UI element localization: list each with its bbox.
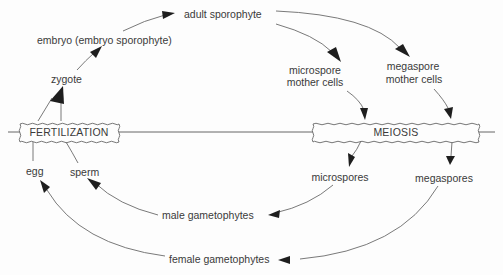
sperm-label: sperm: [70, 166, 99, 178]
zygote-label: zygote: [51, 73, 82, 85]
embryo-arrowhead: [90, 46, 102, 58]
microspores-to-male-line: [275, 185, 333, 213]
meiosis-label: MEIOSIS: [373, 126, 418, 138]
meiosis-to-megaspores-line: [451, 142, 452, 156]
female-gametophytes-label: female gametophytes: [169, 253, 269, 265]
sperm-to-fertilization-line: [66, 142, 78, 163]
megaspores-arrowhead: [446, 156, 455, 165]
sperm-arrowhead: [87, 178, 101, 190]
female-to-egg-line: [47, 190, 165, 256]
megaspore-mother-cells-label-1: megaspore: [387, 60, 440, 72]
meiosis-arrowhead-2: [444, 107, 453, 119]
megaspore-mc-arrowhead: [395, 44, 410, 57]
adult-to-microspore-mc-line: [276, 24, 332, 52]
male-gametophytes-arrowhead: [268, 210, 280, 218]
microspore-mc-to-meiosis-line: [347, 91, 364, 110]
fertilization-to-zygote-line-1: [38, 98, 52, 121]
embryo-to-adult-line: [123, 15, 165, 31]
adult-to-megaspore-mc-line: [276, 11, 400, 48]
adult-sporophyte-label: adult sporophyte: [184, 8, 262, 20]
meiosis-arrowhead-1: [360, 108, 368, 120]
megaspore-mother-cells-label-2: mother cells: [386, 73, 443, 85]
fertilization-box: FERTILIZATION: [19, 123, 120, 143]
life-cycle-diagram: FERTILIZATION MEIOSIS adult sporophyte e…: [0, 0, 503, 275]
megaspores-to-female-line: [300, 186, 438, 259]
megaspores-label: megaspores: [415, 172, 473, 184]
microspore-mother-cells-label-1: microspore: [289, 64, 341, 76]
adult-arrowhead: [162, 11, 175, 19]
male-gametophytes-label: male gametophytes: [162, 209, 254, 221]
egg-label: egg: [26, 165, 44, 177]
microspores-arrowhead: [348, 153, 355, 167]
fertilization-label: FERTILIZATION: [29, 126, 108, 138]
female-gametophytes-arrowhead: [278, 256, 290, 264]
meiosis-box: MEIOSIS: [312, 123, 480, 143]
megaspore-mc-to-meiosis-line: [434, 89, 448, 108]
microspore-mother-cells-label-2: mother cells: [287, 76, 344, 88]
microspores-label: microspores: [311, 171, 368, 183]
egg-arrowhead: [40, 180, 50, 193]
zygote-to-embryo-line: [77, 53, 94, 70]
zygote-arrowhead: [50, 86, 64, 104]
meiosis-to-microspores-line: [352, 141, 361, 156]
male-to-sperm-line: [95, 183, 158, 215]
embryo-label: embryo (embryo sporophyte): [37, 34, 172, 46]
